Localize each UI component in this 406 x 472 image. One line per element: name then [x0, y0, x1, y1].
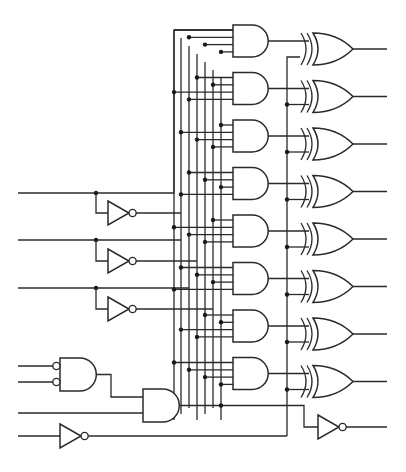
- decoder-and-gate: [233, 215, 268, 247]
- xor-input-arc: [307, 366, 312, 398]
- junction-dot: [285, 245, 289, 249]
- inversion-bubble: [129, 305, 136, 312]
- output-xor-gate: [313, 176, 353, 208]
- junction-dot: [203, 240, 207, 244]
- junction-dot: [219, 403, 223, 407]
- junction-dot: [172, 360, 176, 364]
- junction-dot: [219, 382, 223, 386]
- junction-dot: [203, 42, 207, 46]
- junction-dot: [179, 192, 183, 196]
- junction-dot: [285, 292, 289, 296]
- xor-input-arc: [307, 81, 312, 113]
- inversion-bubble: [81, 432, 88, 439]
- xor-input-arc-outer: [301, 271, 306, 303]
- junction-dot: [285, 150, 289, 154]
- inverter-input-wire: [96, 240, 108, 261]
- junction-dot: [285, 102, 289, 106]
- enable-inverter: [60, 424, 81, 448]
- decoder-and-gate: [233, 168, 268, 200]
- junction-dot: [211, 280, 215, 284]
- junction-dot: [195, 75, 199, 79]
- junction-dot: [211, 218, 215, 222]
- xor-input-arc-outer: [301, 81, 306, 113]
- xor-input-arc: [307, 223, 312, 255]
- junction-dot: [219, 185, 223, 189]
- junction-dot: [211, 83, 215, 87]
- junction-dot: [187, 232, 191, 236]
- bus-feed: [174, 30, 233, 193]
- junction-dot: [219, 123, 223, 127]
- junction-dot: [219, 50, 223, 54]
- xor-input-arc: [307, 318, 312, 350]
- xor-input-arc-outer: [301, 318, 306, 350]
- output-xor-gate: [313, 128, 353, 160]
- decoder-and-gate: [233, 263, 268, 295]
- inverter-input-wire: [96, 288, 108, 309]
- junction-dot: [172, 90, 176, 94]
- xor-input-arc-outer: [301, 33, 306, 65]
- junction-dot: [219, 320, 223, 324]
- output-xor-gate: [313, 318, 353, 350]
- decoder-and-gate: [233, 73, 268, 105]
- decoder-and-gate: [233, 358, 268, 390]
- xor-input-arc-outer: [301, 366, 306, 398]
- inversion-bubble: [339, 423, 346, 430]
- junction-dot: [195, 137, 199, 141]
- decoder-and-gate: [233, 120, 268, 152]
- inversion-bubble: [129, 209, 136, 216]
- junction-dot: [285, 340, 289, 344]
- output-xor-gate: [313, 271, 353, 303]
- output-xor-gate: [313, 81, 353, 113]
- output-xor-gate: [313, 223, 353, 255]
- junction-dot: [187, 35, 191, 39]
- junction-dot: [179, 265, 183, 269]
- decoder-and-gate: [233, 310, 268, 342]
- inversion-bubble: [53, 362, 60, 369]
- inversion-bubble: [53, 378, 60, 385]
- junction-dot: [195, 273, 199, 277]
- junction-dot: [211, 145, 215, 149]
- circuit-svg: [0, 0, 406, 472]
- and-enable-gate: [143, 389, 179, 422]
- xor-input-arc: [307, 128, 312, 160]
- junction-dot: [203, 375, 207, 379]
- output-inverter: [318, 415, 339, 439]
- junction-dot: [203, 313, 207, 317]
- xor-input-arc-outer: [301, 223, 306, 255]
- junction-dot: [172, 287, 176, 291]
- select-inverter: [108, 201, 129, 225]
- select-inverter: [108, 297, 129, 321]
- junction-dot: [187, 170, 191, 174]
- junction-dot: [203, 178, 207, 182]
- xor-input-arc-outer: [301, 176, 306, 208]
- inverter-input-wire: [96, 193, 108, 213]
- circuit-diagram: Logic circuit: 3-to-8 decoder feeding XO…: [0, 0, 406, 472]
- inversion-bubble: [129, 257, 136, 264]
- output-xor-gate: [313, 366, 353, 398]
- enable-and-link: [96, 375, 143, 398]
- and-bubbled-inputs: [60, 358, 96, 391]
- output-xor-gate: [313, 33, 353, 65]
- junction-dot: [187, 97, 191, 101]
- decoder-and-gate: [233, 25, 268, 57]
- junction-dot: [179, 327, 183, 331]
- junction-dot: [187, 368, 191, 372]
- select-inverter: [108, 249, 129, 273]
- junction-dot: [285, 387, 289, 391]
- junction-dot: [172, 225, 176, 229]
- out-inverter-input: [270, 406, 318, 428]
- junction-dot: [285, 197, 289, 201]
- junction-dot: [179, 130, 183, 134]
- xor-input-arc: [307, 271, 312, 303]
- xor-input-arc: [307, 33, 312, 65]
- xor-input-arc-outer: [301, 128, 306, 160]
- xor-input-arc: [307, 176, 312, 208]
- junction-dot: [195, 335, 199, 339]
